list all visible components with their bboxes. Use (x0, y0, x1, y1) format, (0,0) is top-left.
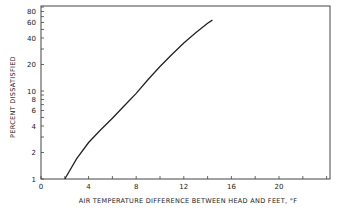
y-tick-label: 6 (32, 107, 37, 115)
x-tick-label: 16 (227, 183, 236, 191)
y-tick-label: 8 (32, 96, 36, 104)
y-tick-label: 60 (27, 19, 36, 27)
y-tick-label: 4 (32, 123, 37, 131)
x-axis-ticks: 048121620 (39, 176, 327, 191)
y-tick-label: 2 (32, 149, 36, 157)
y-tick-label: 10 (27, 88, 36, 96)
y-axis-title: PERCENT DISSATISFIED (9, 56, 17, 138)
x-tick-label: 0 (39, 183, 43, 191)
chart: 048121620 124681020406080 AIR TEMPERATUR… (0, 0, 339, 216)
x-tick-label: 20 (275, 183, 284, 191)
y-tick-label: 20 (27, 61, 36, 69)
x-tick-label: 12 (179, 183, 188, 191)
x-axis-title: AIR TEMPERATURE DIFFERENCE BETWEEN HEAD … (79, 197, 298, 205)
y-tick-label: 80 (27, 8, 36, 16)
y-tick-label: 40 (27, 35, 36, 43)
x-tick-label: 4 (86, 183, 91, 191)
data-curve (65, 20, 213, 179)
x-tick-label: 8 (134, 183, 138, 191)
y-tick-label: 1 (32, 176, 36, 184)
plot-frame (41, 6, 330, 179)
